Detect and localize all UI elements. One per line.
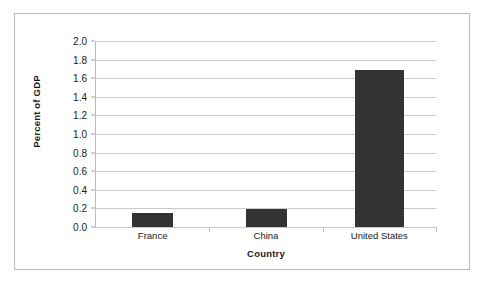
y-axis-tick-label: 0.6 xyxy=(73,166,87,177)
plot-area xyxy=(96,41,436,227)
y-axis-tick-label: 0.0 xyxy=(73,222,87,233)
y-axis-tick-label: 1.0 xyxy=(73,129,87,140)
gridline xyxy=(96,60,436,61)
x-axis-tick-mark xyxy=(209,227,210,232)
y-axis-tick-label: 1.8 xyxy=(73,54,87,65)
bar-chart: Percent of GDP 2.01.81.61.41.21.00.80.60… xyxy=(15,14,469,269)
x-axis-category-labels: FranceChinaUnited States xyxy=(96,230,436,246)
gridline xyxy=(96,41,436,42)
x-axis-tick-mark xyxy=(323,227,324,232)
y-axis-tick-label: 1.2 xyxy=(73,110,87,121)
y-axis-tick-label: 1.6 xyxy=(73,73,87,84)
y-axis-title: Percent of GDP xyxy=(31,47,42,177)
y-axis-tick-label: 0.8 xyxy=(73,147,87,158)
figure-frame: Percent of GDP 2.01.81.61.41.21.00.80.60… xyxy=(14,13,470,270)
x-axis-category-label: China xyxy=(254,230,279,241)
x-axis-title: Country xyxy=(96,248,436,259)
y-axis-tick-label: 2.0 xyxy=(73,36,87,47)
y-axis-tick-label: 0.4 xyxy=(73,184,87,195)
x-axis-category-label: France xyxy=(138,230,168,241)
y-axis-tick-labels: 2.01.81.61.41.21.00.80.60.40.20.0 xyxy=(51,41,91,227)
y-axis-tick-label: 1.4 xyxy=(73,91,87,102)
x-axis-tick-mark xyxy=(436,227,437,232)
bar xyxy=(355,70,404,227)
x-axis-category-label: United States xyxy=(351,230,408,241)
y-axis-tick-label: 0.2 xyxy=(73,203,87,214)
bar xyxy=(132,213,173,227)
gridline xyxy=(96,227,436,228)
bar xyxy=(246,209,287,227)
